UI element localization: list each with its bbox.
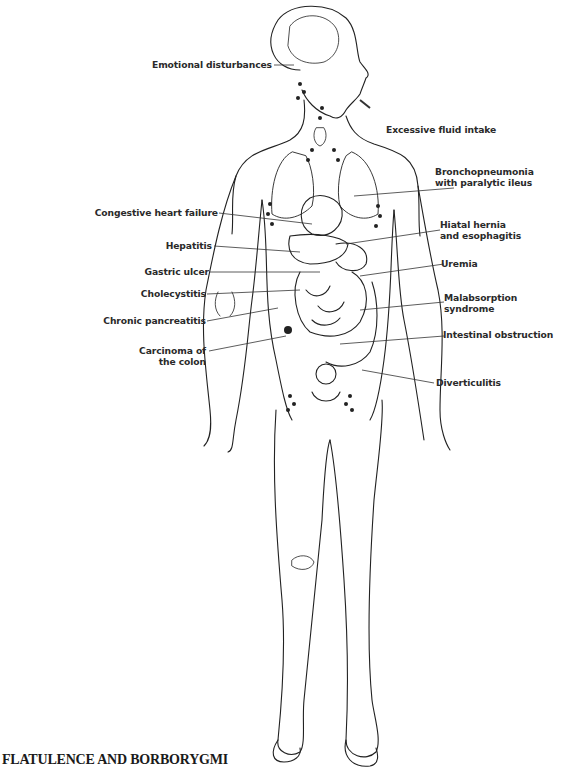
label-diverticulitis: Diverticulitis	[436, 377, 501, 388]
label-excessive-fluid-intake: Excessive fluid intake	[386, 124, 496, 135]
label-bronchopneumonia: Bronchopneumonia with paralytic ileus	[435, 166, 534, 188]
figure-title: FLATULENCE AND BORBORYGMI	[2, 752, 228, 768]
label-uremia: Uremia	[441, 258, 478, 269]
label-bronchopneumonia-line2: with paralytic ileus	[435, 177, 534, 188]
label-hepatitis: Hepatitis	[120, 240, 212, 251]
label-carcinoma-line1: Carcinoma of	[120, 345, 206, 356]
label-intestinal-obstruction: Intestinal obstruction	[443, 329, 553, 340]
label-malabsorption-line1: Malabsorption	[444, 292, 517, 303]
label-congestive-heart-failure: Congestive heart failure	[86, 207, 218, 218]
head-outline	[271, 6, 368, 118]
label-hiatal-hernia: Hiatal hernia and esophagitis	[440, 219, 521, 241]
label-carcinoma-of-the-colon: Carcinoma of the colon	[120, 345, 206, 367]
label-bronchopneumonia-line1: Bronchopneumonia	[435, 166, 534, 177]
label-chronic-pancreatitis: Chronic pancreatitis	[100, 315, 206, 326]
label-hiatal-line1: Hiatal hernia	[440, 219, 521, 230]
label-malabsorption-line2: syndrome	[444, 303, 517, 314]
label-carcinoma-line2: the colon	[120, 356, 206, 367]
body-illustration	[0, 0, 563, 780]
label-hiatal-line2: and esophagitis	[440, 230, 521, 241]
label-malabsorption-syndrome: Malabsorption syndrome	[444, 292, 517, 314]
label-gastric-ulcer: Gastric ulcer	[120, 266, 209, 277]
label-cholecystitis: Cholecystitis	[120, 288, 206, 299]
label-emotional-disturbances: Emotional disturbances	[110, 59, 272, 70]
